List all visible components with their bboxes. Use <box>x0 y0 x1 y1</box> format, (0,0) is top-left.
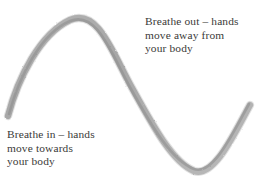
annotation-breathe-out-line-3: your body <box>145 42 239 56</box>
annotation-breathe-out: Breathe out – hands move away from your … <box>145 15 239 56</box>
annotation-breathe-in-line-3: your body <box>7 155 95 169</box>
annotation-breathe-in: Breathe in – hands move towards your bod… <box>7 128 95 169</box>
annotation-breathe-in-line-1: Breathe in – hands <box>7 128 95 142</box>
annotation-breathe-out-line-2: move away from <box>145 29 239 43</box>
diagram-canvas: Breathe out – hands move away from your … <box>0 0 265 186</box>
annotation-breathe-out-line-1: Breathe out – hands <box>145 15 239 29</box>
annotation-breathe-in-line-2: move towards <box>7 142 95 156</box>
